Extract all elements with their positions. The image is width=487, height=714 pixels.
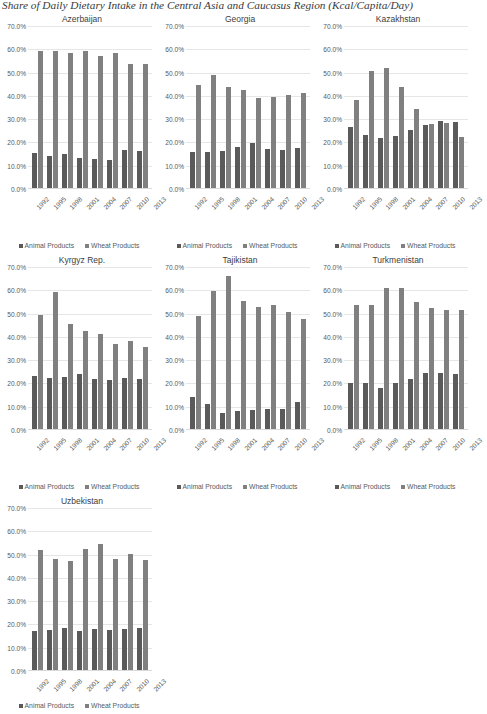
bar-animal[interactable] (453, 374, 458, 429)
bar-wheat[interactable] (128, 341, 133, 429)
bar-animal[interactable] (363, 383, 368, 429)
bar-wheat[interactable] (301, 93, 306, 188)
bar-wheat[interactable] (414, 302, 419, 429)
bar-animal[interactable] (92, 159, 97, 188)
bar-wheat[interactable] (384, 68, 389, 188)
legend-item-animal[interactable]: Animal Products (177, 242, 233, 249)
bar-wheat[interactable] (113, 559, 118, 670)
bar-animal[interactable] (423, 373, 428, 429)
legend-item-animal[interactable]: Animal Products (335, 242, 391, 249)
legend-item-animal[interactable]: Animal Products (19, 483, 75, 490)
bar-animal[interactable] (92, 379, 97, 429)
bar-wheat[interactable] (38, 51, 43, 188)
bar-animal[interactable] (32, 376, 37, 429)
bar-wheat[interactable] (354, 305, 359, 429)
bar-wheat[interactable] (301, 319, 306, 429)
bar-animal[interactable] (122, 629, 127, 670)
bar-animal[interactable] (265, 409, 270, 429)
bar-wheat[interactable] (83, 51, 88, 188)
bar-wheat[interactable] (113, 53, 118, 188)
bar-wheat[interactable] (211, 291, 216, 429)
bar-animal[interactable] (107, 630, 112, 670)
bar-wheat[interactable] (286, 312, 291, 429)
bar-animal[interactable] (453, 122, 458, 188)
bar-animal[interactable] (250, 143, 255, 188)
bar-wheat[interactable] (444, 310, 449, 429)
bar-animal[interactable] (423, 125, 428, 188)
bar-animal[interactable] (408, 130, 413, 188)
bar-animal[interactable] (250, 410, 255, 429)
legend-item-wheat[interactable]: Wheat Products (85, 483, 139, 490)
bar-animal[interactable] (122, 150, 127, 188)
bar-animal[interactable] (32, 631, 37, 670)
bar-animal[interactable] (205, 404, 210, 429)
bar-wheat[interactable] (38, 315, 43, 429)
bar-animal[interactable] (295, 148, 300, 188)
bar-animal[interactable] (107, 160, 112, 188)
bar-wheat[interactable] (241, 301, 246, 429)
bar-wheat[interactable] (271, 97, 276, 188)
legend-item-wheat[interactable]: Wheat Products (243, 483, 297, 490)
bar-animal[interactable] (220, 151, 225, 188)
bar-wheat[interactable] (429, 124, 434, 188)
bar-wheat[interactable] (68, 53, 73, 188)
legend-item-animal[interactable]: Animal Products (19, 242, 75, 249)
legend-item-wheat[interactable]: Wheat Products (85, 702, 139, 709)
bar-animal[interactable] (408, 379, 413, 429)
bar-wheat[interactable] (459, 137, 464, 188)
bar-wheat[interactable] (211, 75, 216, 188)
bar-animal[interactable] (62, 154, 67, 188)
bar-animal[interactable] (220, 413, 225, 429)
legend-item-animal[interactable]: Animal Products (335, 483, 391, 490)
bar-animal[interactable] (363, 135, 368, 188)
legend-item-wheat[interactable]: Wheat Products (243, 242, 297, 249)
bar-wheat[interactable] (444, 123, 449, 188)
bar-wheat[interactable] (369, 305, 374, 429)
bar-animal[interactable] (137, 628, 142, 670)
bar-animal[interactable] (190, 152, 195, 188)
bar-animal[interactable] (205, 152, 210, 188)
bar-animal[interactable] (378, 138, 383, 188)
bar-wheat[interactable] (143, 560, 148, 670)
bar-animal[interactable] (295, 402, 300, 429)
bar-animal[interactable] (438, 373, 443, 429)
bar-wheat[interactable] (256, 307, 261, 429)
bar-wheat[interactable] (369, 71, 374, 188)
bar-wheat[interactable] (68, 561, 73, 670)
bar-animal[interactable] (47, 630, 52, 670)
legend-item-wheat[interactable]: Wheat Products (401, 242, 455, 249)
bar-wheat[interactable] (68, 324, 73, 429)
bar-animal[interactable] (47, 156, 52, 188)
bar-animal[interactable] (348, 383, 353, 429)
bar-animal[interactable] (265, 149, 270, 188)
bar-animal[interactable] (47, 378, 52, 429)
bar-animal[interactable] (122, 378, 127, 429)
bar-wheat[interactable] (53, 292, 58, 429)
bar-wheat[interactable] (98, 334, 103, 429)
bar-animal[interactable] (77, 631, 82, 670)
bar-animal[interactable] (378, 388, 383, 429)
bar-animal[interactable] (92, 629, 97, 670)
bar-animal[interactable] (137, 379, 142, 429)
bar-wheat[interactable] (53, 559, 58, 670)
bar-animal[interactable] (137, 151, 142, 188)
bar-wheat[interactable] (143, 64, 148, 188)
bar-animal[interactable] (348, 127, 353, 188)
bar-animal[interactable] (235, 411, 240, 429)
bar-animal[interactable] (393, 383, 398, 429)
bar-animal[interactable] (32, 153, 37, 188)
bar-animal[interactable] (235, 147, 240, 188)
bar-animal[interactable] (62, 628, 67, 670)
bar-wheat[interactable] (399, 87, 404, 188)
bar-wheat[interactable] (83, 549, 88, 670)
bar-wheat[interactable] (399, 288, 404, 429)
bar-wheat[interactable] (143, 347, 148, 429)
bar-animal[interactable] (107, 380, 112, 429)
bar-wheat[interactable] (113, 344, 118, 429)
bar-wheat[interactable] (53, 51, 58, 188)
legend-item-animal[interactable]: Animal Products (19, 702, 75, 709)
bar-wheat[interactable] (286, 95, 291, 188)
bar-animal[interactable] (438, 121, 443, 188)
bar-wheat[interactable] (98, 56, 103, 188)
bar-wheat[interactable] (98, 544, 103, 670)
